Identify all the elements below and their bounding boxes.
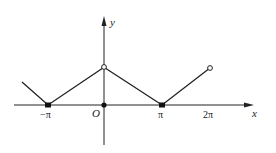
open-point-peak [102, 65, 107, 70]
point-pi [159, 103, 165, 108]
tick-label-pi: π [158, 109, 163, 120]
tick-label-2pi: 2π [203, 109, 213, 120]
tick-label-neg-pi: −π [40, 109, 51, 120]
graph-segment-left [22, 68, 103, 105]
function-graph: y x O −π π 2π [0, 0, 276, 153]
y-axis-arrow-icon [102, 16, 107, 26]
y-axis-label: y [109, 16, 115, 28]
open-point-2pi [208, 66, 213, 71]
graph-segment-right [106, 68, 209, 105]
origin-label: O [92, 107, 100, 119]
point-origin [101, 102, 106, 107]
x-axis-label: x [251, 107, 257, 119]
point-neg-pi [45, 103, 51, 108]
